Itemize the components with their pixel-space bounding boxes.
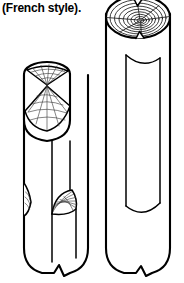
figure-root: (French style).	[0, 0, 184, 283]
log-illustration-svg	[0, 0, 184, 283]
right-log-billet	[106, 0, 170, 276]
left-log-billet	[24, 62, 88, 276]
figure-caption: (French style).	[2, 1, 81, 15]
